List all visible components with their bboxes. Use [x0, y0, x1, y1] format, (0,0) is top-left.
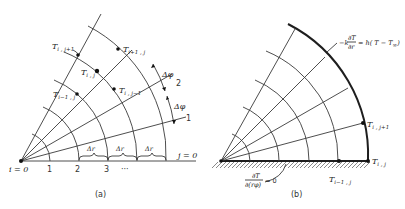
- delta-r-brace-1: [79, 153, 108, 160]
- delta-r-brace-3: [137, 153, 166, 160]
- radial-line-b4: [221, 29, 295, 161]
- i-label-more: ···: [121, 165, 129, 174]
- delta-r-label-1: Δr: [86, 145, 96, 153]
- svg-text:∂T: ∂T: [348, 34, 356, 42]
- svg-text:= 0: = 0: [265, 177, 277, 185]
- node-T-ip1-j: [116, 47, 120, 51]
- caption-a: (a): [95, 190, 106, 199]
- svg-text:∂(rφ): ∂(rφ): [245, 181, 262, 189]
- i-label-2: 2: [75, 165, 80, 174]
- delta-r-brace-2: [108, 153, 137, 160]
- svg-text:= h( T − T∞): = h( T − T∞): [358, 39, 400, 48]
- i-label-1: 1: [47, 165, 52, 174]
- node-T-i-jp1-b: [361, 121, 365, 125]
- i-label-3: 3: [104, 165, 109, 174]
- node-T-i-j-b: [366, 159, 370, 163]
- polar-grid-diagrams: Ti , j+1 Ti+1 , j Ti , j Ti , j−1 Ti−1 ,…: [0, 0, 405, 209]
- origin-node: [19, 159, 23, 163]
- label-T-i-jp1-b: Ti , j+1: [367, 120, 389, 131]
- node-T-im1-j: [75, 92, 79, 96]
- radial-line-b3: [221, 57, 325, 161]
- delta-r-label-2: Δr: [115, 145, 125, 153]
- node-T-im1-j-b: [337, 159, 341, 163]
- delta-phi-arrow-2: [167, 96, 174, 124]
- origin-node-b: [219, 159, 223, 163]
- label-T-i-jp1: Ti , j+1: [52, 42, 74, 53]
- insulated-boundary-hatch: [212, 162, 370, 168]
- convective-boundary-arc: [288, 24, 368, 161]
- svg-text:∂r: ∂r: [348, 43, 355, 51]
- radial-line-b2: [221, 88, 348, 161]
- i-label-0: i = 0: [9, 165, 28, 174]
- j-label-0: j = 0: [176, 151, 197, 160]
- delta-r-label-3: Δr: [144, 145, 154, 153]
- radial-line-j4: [21, 14, 101, 161]
- radial-line-b1: [221, 123, 363, 161]
- arrowhead: [172, 120, 176, 124]
- delta-phi-label-2: Δφ: [173, 102, 186, 111]
- arrowhead: [162, 87, 166, 91]
- label-T-i-j-b: Ti , j: [372, 157, 386, 168]
- label-T-im1-j-b: Ti−1 , j: [329, 175, 351, 186]
- caption-b: (b): [291, 190, 302, 199]
- node-T-i-j: [95, 69, 99, 73]
- leader-T-i-jp1: [73, 50, 78, 54]
- j-label-1: 1: [186, 114, 191, 123]
- insulated-bc-equation: ∂T ∂(rφ) = 0: [245, 172, 277, 189]
- delta-phi-label-1: Δφ: [161, 70, 174, 79]
- label-T-i-jm1: Ti , j−1: [119, 86, 141, 97]
- figure-b: Ti , j+1 Ti , j Ti−1 , j −k ∂T ∂r = h( T…: [212, 24, 400, 199]
- leader-convection: [327, 43, 337, 52]
- node-T-i-jm1: [112, 87, 116, 91]
- convection-bc-equation: −k ∂T ∂r = h( T − T∞): [339, 34, 400, 51]
- label-T-i-j: Ti , j: [81, 68, 95, 79]
- j-label-2: 2: [176, 79, 181, 88]
- label-T-im1-j: Ti−1 , j: [53, 90, 75, 101]
- svg-text:∂T: ∂T: [252, 172, 260, 180]
- figure-a: Ti , j+1 Ti+1 , j Ti , j Ti , j−1 Ti−1 ,…: [9, 14, 197, 199]
- radial-line-j1: [21, 117, 186, 161]
